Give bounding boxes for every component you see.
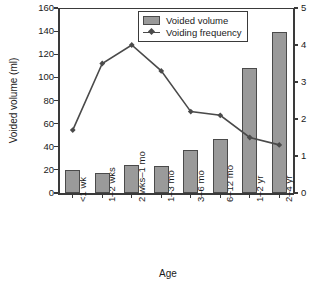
line-series-layer <box>0 0 336 292</box>
line-marker <box>70 127 76 133</box>
voided-volume-frequency-chart: Voided volume (ml) Voiding frequency (pe… <box>0 0 336 292</box>
legend-swatch-icon <box>143 16 160 25</box>
chart-legend: Voided volume Voiding frequency <box>138 11 248 42</box>
legend-label: Voiding frequency <box>166 27 242 38</box>
line-marker <box>276 142 282 148</box>
legend-item-voiding-frequency: Voiding frequency <box>143 26 242 38</box>
legend-item-voided-volume: Voided volume <box>143 14 242 26</box>
legend-label: Voided volume <box>166 15 228 26</box>
legend-line-marker-icon <box>143 28 160 37</box>
line-path <box>73 45 280 145</box>
